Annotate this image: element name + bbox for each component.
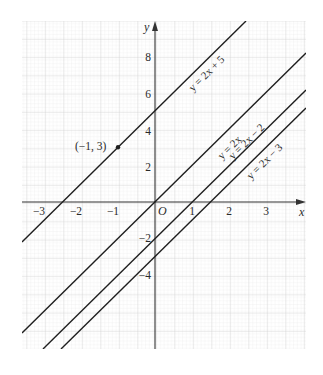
x-tick-label: −1	[107, 205, 119, 217]
point-label: (−1, 3)	[75, 140, 107, 153]
y-tick-label: −4	[139, 269, 151, 281]
y-tick-label: 6	[145, 88, 151, 100]
grid-background	[22, 21, 306, 349]
x-tick-label: 3	[263, 205, 269, 217]
origin-label: O	[158, 204, 167, 218]
x-axis-label: x	[298, 205, 305, 219]
x-tick-label: 2	[226, 205, 232, 217]
y-tick-label: 2	[145, 161, 151, 173]
x-tick-label: −3	[33, 205, 45, 217]
x-tick-label: −2	[70, 205, 82, 217]
y-axis-label: y	[143, 20, 150, 34]
point-marker	[116, 145, 120, 149]
y-tick-label: 8	[145, 51, 151, 63]
y-tick-label: 4	[145, 125, 151, 137]
y-tick-label: −2	[139, 232, 151, 244]
graph-figure: y x O −3 −2 −1 1 2 3 8 6 4 2 −2 −4 y = 2…	[0, 0, 323, 375]
x-tick-label: 1	[189, 205, 195, 217]
